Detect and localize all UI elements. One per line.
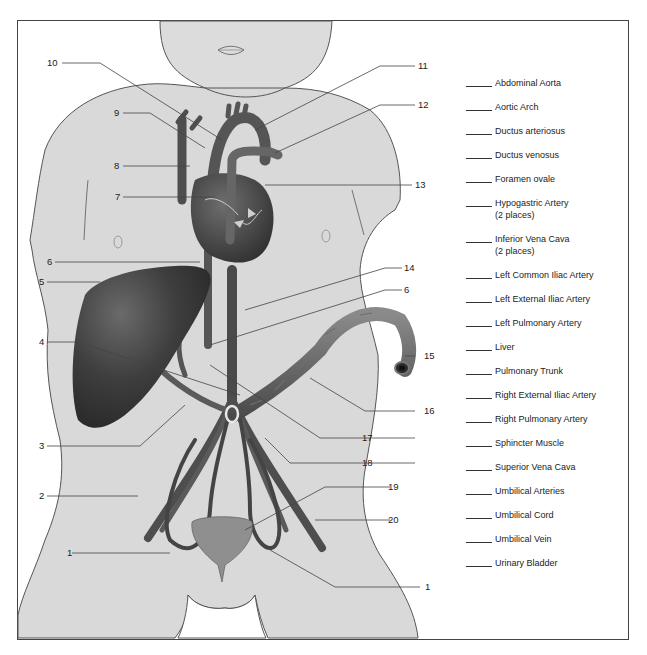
callout-2: 2 — [39, 491, 44, 501]
answer-blank[interactable] — [466, 446, 492, 447]
answer-blank[interactable] — [466, 518, 492, 519]
callout-6-left: 6 — [47, 257, 52, 267]
callout-16: 16 — [424, 406, 435, 416]
answer-blank[interactable] — [466, 206, 492, 207]
answer-blank[interactable] — [466, 422, 492, 423]
callout-11: 11 — [418, 61, 428, 71]
callout-5: 5 — [39, 277, 44, 287]
answer-blank[interactable] — [466, 182, 492, 183]
answer-blank[interactable] — [466, 302, 492, 303]
answer-blank[interactable] — [466, 158, 492, 159]
answer-blank[interactable] — [466, 242, 492, 243]
callout-7: 7 — [115, 192, 120, 202]
answer-blank[interactable] — [466, 566, 492, 567]
answer-blank[interactable] — [466, 350, 492, 351]
answer-blank[interactable] — [466, 470, 492, 471]
callout-14: 14 — [404, 263, 415, 273]
callout-1-left: 1 — [67, 548, 72, 558]
callout-13: 13 — [415, 180, 426, 190]
answer-blank[interactable] — [466, 278, 492, 279]
callout-17: 17 — [362, 433, 373, 443]
answer-blank[interactable] — [466, 494, 492, 495]
callout-1-right: 1 — [425, 582, 430, 592]
callout-4: 4 — [39, 337, 44, 347]
callout-6-right: 6 — [404, 285, 409, 295]
callout-10: 10 — [47, 58, 58, 68]
callout-15: 15 — [424, 351, 435, 361]
answer-blank[interactable] — [466, 374, 492, 375]
callout-20: 20 — [388, 515, 399, 525]
callout-3: 3 — [39, 441, 44, 451]
callout-9: 9 — [114, 108, 119, 118]
callout-19: 19 — [388, 482, 399, 492]
callout-8: 8 — [114, 161, 119, 171]
answer-blank[interactable] — [466, 86, 492, 87]
callout-12: 12 — [418, 100, 429, 110]
answer-blank[interactable] — [466, 110, 492, 111]
answer-blank[interactable] — [466, 134, 492, 135]
answer-blank[interactable] — [466, 326, 492, 327]
answer-blank[interactable] — [466, 542, 492, 543]
answer-blank[interactable] — [466, 398, 492, 399]
callout-18: 18 — [362, 458, 373, 468]
